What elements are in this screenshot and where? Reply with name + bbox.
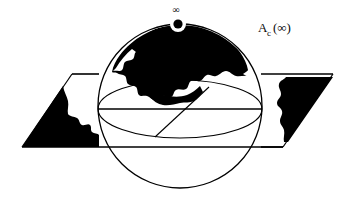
infinity-symbol-label: ∞ bbox=[172, 4, 179, 15]
infinity-marker-inner-dot bbox=[173, 19, 182, 28]
figure-root: ∞ A c (∞) bbox=[0, 0, 352, 205]
point-at-infinity-marker bbox=[170, 16, 186, 32]
basin-label-subscript-c: c bbox=[267, 28, 271, 38]
diagram-canvas: ∞ A c (∞) bbox=[0, 0, 352, 205]
basin-label-argument: (∞) bbox=[273, 20, 291, 35]
